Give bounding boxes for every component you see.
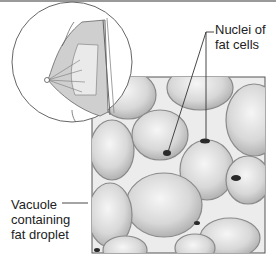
label-line: Nuclei of <box>215 22 266 37</box>
label-nuclei-of-fat-cells: Nuclei of fat cells <box>215 22 266 52</box>
label-line: fat droplet <box>11 227 70 242</box>
label-vacuole-fat-droplet: Vacuole containing fat droplet <box>11 197 70 242</box>
label-line: fat cells <box>215 37 266 52</box>
label-line: Vacuole <box>11 197 70 212</box>
label-line: containing <box>11 212 70 227</box>
breast-cross-section-inset <box>12 2 132 122</box>
